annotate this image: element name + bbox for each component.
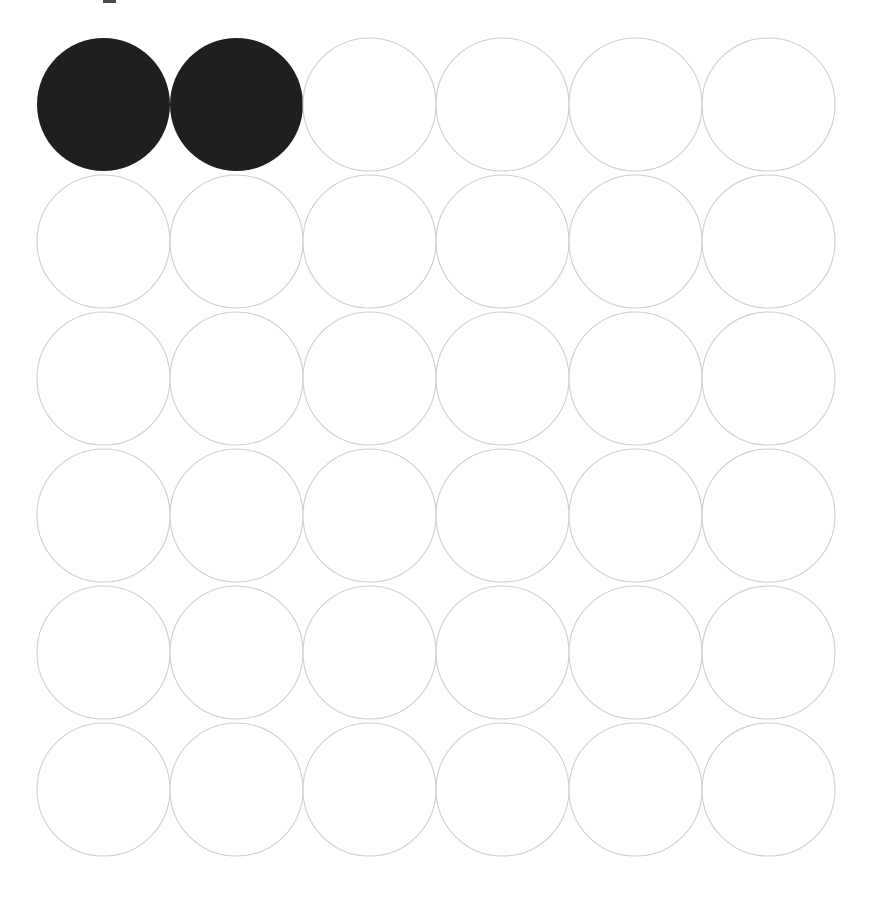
circle-r2-c3[interactable] <box>303 175 436 308</box>
circle-r1-c5[interactable] <box>569 38 702 171</box>
circle-r6-c6[interactable] <box>702 723 835 856</box>
circle-r2-c1[interactable] <box>37 175 170 308</box>
circle-r4-c3[interactable] <box>303 449 436 582</box>
circle-r4-c2[interactable] <box>170 449 303 582</box>
circle-r6-c4[interactable] <box>436 723 569 856</box>
circle-r6-c1[interactable] <box>37 723 170 856</box>
figure-canvas <box>0 0 879 911</box>
circle-r5-c6[interactable] <box>702 586 835 719</box>
circle-r3-c3[interactable] <box>303 312 436 445</box>
circle-r1-c6[interactable] <box>702 38 835 171</box>
circle-r5-c2[interactable] <box>170 586 303 719</box>
circle-r1-c2[interactable] <box>170 38 303 171</box>
circle-r5-c1[interactable] <box>37 586 170 719</box>
circle-r6-c5[interactable] <box>569 723 702 856</box>
circle-r4-c5[interactable] <box>569 449 702 582</box>
circle-r2-c2[interactable] <box>170 175 303 308</box>
circle-r3-c2[interactable] <box>170 312 303 445</box>
circle-r4-c1[interactable] <box>37 449 170 582</box>
circle-r5-c5[interactable] <box>569 586 702 719</box>
circle-r2-c5[interactable] <box>569 175 702 308</box>
circle-r3-c6[interactable] <box>702 312 835 445</box>
circle-r3-c5[interactable] <box>569 312 702 445</box>
circle-r1-c3[interactable] <box>303 38 436 171</box>
circle-r6-c2[interactable] <box>170 723 303 856</box>
circle-r3-c1[interactable] <box>37 312 170 445</box>
top-edge-artifact <box>103 0 116 3</box>
circle-r2-c4[interactable] <box>436 175 569 308</box>
circle-r5-c4[interactable] <box>436 586 569 719</box>
circle-r3-c4[interactable] <box>436 312 569 445</box>
circle-r4-c4[interactable] <box>436 449 569 582</box>
circle-r6-c3[interactable] <box>303 723 436 856</box>
circle-r5-c3[interactable] <box>303 586 436 719</box>
circle-r1-c1[interactable] <box>37 38 170 171</box>
circle-r1-c4[interactable] <box>436 38 569 171</box>
circle-r2-c6[interactable] <box>702 175 835 308</box>
circle-r4-c6[interactable] <box>702 449 835 582</box>
circle-grid <box>0 0 879 911</box>
